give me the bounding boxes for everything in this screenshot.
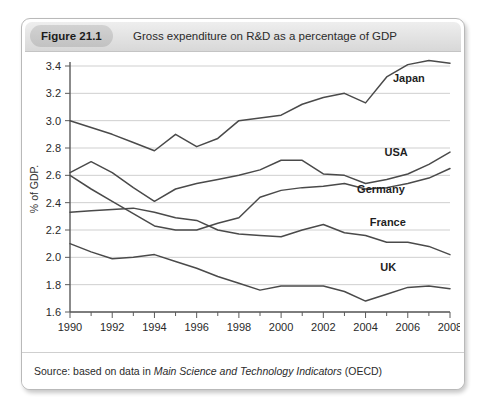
y-tick-label: 2.6 — [46, 169, 61, 181]
y-axis: 1.61.82.02.22.42.62.83.03.23.4 — [46, 60, 70, 318]
figure-card: Figure 21.1 Gross expenditure on R&D as … — [21, 18, 465, 390]
y-tick-label: 2.8 — [46, 142, 61, 154]
y-tick-label: 2.2 — [46, 224, 61, 236]
x-tick-label: 2004 — [353, 321, 377, 333]
series-label-japan: Japan — [393, 72, 425, 84]
series-label-usa: USA — [385, 146, 408, 158]
x-tick-label: 1998 — [227, 321, 251, 333]
y-tick-label: 3.0 — [46, 115, 61, 127]
x-tick-label: 2006 — [396, 321, 420, 333]
x-tick-label: 2000 — [269, 321, 293, 333]
y-tick-label: 3.4 — [46, 60, 61, 72]
x-axis: 1990199219941996199820002002200420062008 — [58, 312, 460, 333]
series-label-uk: UK — [380, 261, 396, 273]
y-tick-label: 2.4 — [46, 197, 61, 209]
x-tick-label: 2002 — [311, 321, 335, 333]
chart-plot-area: 1.61.82.02.22.42.62.83.03.23.4 199019921… — [22, 52, 464, 355]
x-tick-label: 2008 — [438, 321, 460, 333]
source-title-italic: Main Science and Technology Indicators — [154, 365, 342, 377]
source-suffix: (OECD) — [342, 365, 382, 377]
x-tick-label: 1992 — [100, 321, 124, 333]
y-tick-label: 2.0 — [46, 251, 61, 263]
y-axis-title: % of GDP. — [28, 165, 40, 213]
x-tick-label: 1994 — [142, 321, 166, 333]
y-tick-label: 1.8 — [46, 279, 61, 291]
x-tick-label: 1996 — [184, 321, 208, 333]
figure-header: Figure 21.1 Gross expenditure on R&D as … — [25, 22, 461, 52]
figure-source-note: Source: based on data in Main Science an… — [22, 352, 464, 389]
y-tick-label: 1.6 — [46, 306, 61, 318]
y-tick-label: 3.2 — [46, 87, 61, 99]
series-label-france: France — [370, 216, 406, 228]
figure-number-badge: Figure 21.1 — [30, 25, 113, 47]
source-prefix: Source: based on data in — [34, 365, 154, 377]
series-label-germany: Germany — [357, 183, 406, 195]
rd-expenditure-line-chart: 1.61.82.02.22.42.62.83.03.23.4 199019921… — [22, 52, 460, 355]
x-tick-label: 1990 — [58, 321, 82, 333]
figure-caption-title: Gross expenditure on R&D as a percentage… — [133, 22, 397, 51]
